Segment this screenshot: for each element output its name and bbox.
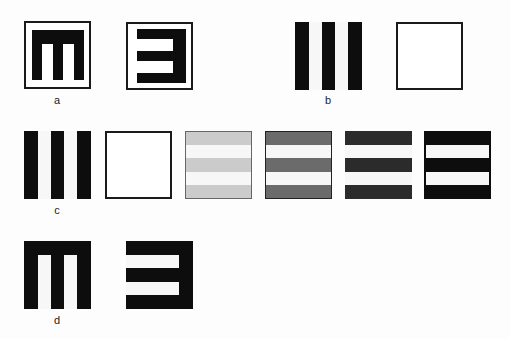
white-stripe (426, 172, 489, 185)
white-slot (126, 255, 179, 268)
white-slot (64, 255, 77, 309)
white-stripe (335, 22, 348, 90)
white-stripe (38, 131, 51, 199)
white-stripe (186, 172, 252, 185)
panel-c-horizontal-grating-black (424, 131, 491, 199)
white-stripe (309, 22, 322, 90)
label-a: a (47, 94, 67, 106)
white-slot (126, 282, 179, 295)
white-stripe (345, 172, 412, 185)
panel-c-blank-frame (105, 131, 172, 199)
panel-a-m-shape (24, 21, 91, 89)
panel-a-e-shape (126, 22, 193, 90)
white-stripe (266, 172, 332, 185)
panel-c-horizontal-grating-light (185, 131, 252, 199)
label-d: d (47, 314, 67, 326)
m-right-leg (74, 30, 84, 80)
white-stripe (345, 145, 412, 158)
label-b: b (318, 94, 338, 106)
panel-c-vertical-grating (24, 131, 91, 199)
white-stripe (186, 145, 252, 158)
white-stripe (266, 145, 332, 158)
e-top-bar (137, 29, 186, 39)
panel-d-m-shape (24, 241, 91, 309)
e-middle-bar (137, 51, 186, 61)
m-middle-leg (53, 30, 63, 80)
panel-c-horizontal-grating-mid (265, 131, 332, 199)
white-stripe (64, 131, 77, 199)
label-c: c (47, 204, 67, 216)
white-slot (38, 255, 51, 309)
e-bottom-bar (137, 73, 186, 83)
panel-c-horizontal-grating-dark (345, 131, 412, 199)
panel-b-vertical-grating (295, 22, 362, 90)
white-stripe (426, 145, 489, 158)
m-left-leg (32, 30, 42, 80)
panel-d-e-shape (126, 241, 193, 309)
panel-b-blank-frame (396, 22, 463, 90)
